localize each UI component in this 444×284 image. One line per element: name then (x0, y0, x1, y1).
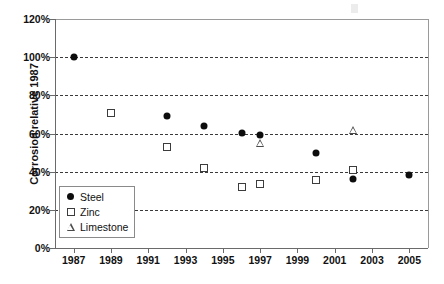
legend-item-steel: Steel (64, 189, 128, 204)
data-point-limestone (349, 126, 357, 134)
y-tick-label: 0% (10, 242, 50, 254)
corrosion-scatter-chart: Corrosion relative 1987 0%20%40%60%80%10… (0, 0, 444, 284)
y-tick-label: 20% (10, 204, 50, 216)
gridline (55, 172, 428, 173)
y-tick-label: 60% (10, 128, 50, 140)
legend-item-limestone: Limestone (64, 219, 128, 234)
triangle-inner (257, 141, 263, 146)
legend-label: Limestone (80, 221, 128, 233)
data-point-steel (238, 129, 245, 136)
y-tick-label: 100% (10, 51, 50, 63)
x-tick-label: 2005 (379, 254, 439, 266)
data-point-steel (257, 132, 264, 139)
legend-marker-steel-icon (64, 193, 77, 200)
data-point-steel (70, 54, 77, 61)
data-point-steel (406, 172, 413, 179)
legend-marker-limestone-icon (64, 223, 77, 231)
data-point-steel (201, 122, 208, 129)
plot-top-border (55, 19, 428, 20)
y-axis-tick-labels: 0%20%40%60%80%100%120% (8, 0, 50, 284)
scan-artifact (351, 4, 358, 13)
triangle-inner (350, 128, 356, 133)
chart-legend: SteelZincLimestone (59, 186, 135, 238)
data-point-zinc (256, 180, 264, 188)
gridline (55, 57, 428, 58)
y-tick-label: 80% (10, 89, 50, 101)
legend-marker-zinc-icon (64, 208, 77, 216)
x-axis-line (55, 248, 428, 249)
data-point-limestone (256, 139, 264, 147)
legend-label: Steel (80, 191, 104, 203)
plot-right-border (428, 19, 429, 248)
data-point-steel (350, 176, 357, 183)
data-point-zinc (312, 176, 320, 184)
data-point-zinc (107, 109, 115, 117)
data-point-steel (163, 113, 170, 120)
y-axis-line (55, 19, 56, 248)
data-point-zinc (200, 164, 208, 172)
data-point-zinc (349, 166, 357, 174)
data-point-zinc (163, 143, 171, 151)
legend-item-zinc: Zinc (64, 204, 128, 219)
y-tick-label: 40% (10, 166, 50, 178)
y-tick-label: 120% (10, 13, 50, 25)
data-point-zinc (238, 183, 246, 191)
data-point-steel (313, 149, 320, 156)
gridline (55, 95, 428, 96)
legend-label: Zinc (80, 206, 100, 218)
